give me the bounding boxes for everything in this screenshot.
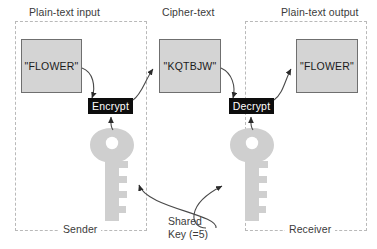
panel-receiver-footer: Receiver <box>285 223 335 235</box>
ciphertext-box: "KQTBJW" <box>159 39 221 93</box>
diagram-canvas: Plain-text input Sender Cipher-text Plai… <box>0 0 377 249</box>
panel-sender-footer: Sender <box>59 223 101 235</box>
shared-key-label-line1: Shared <box>168 215 208 228</box>
plaintext-output-box: "FLOWER" <box>296 39 358 93</box>
connector-ciphertext-to-decrypt <box>221 68 234 98</box>
panel-sender-title: Plain-text input <box>29 6 100 18</box>
encrypt-box: Encrypt <box>88 98 133 114</box>
plaintext-input-box: "FLOWER" <box>21 39 82 93</box>
decrypt-box: Decrypt <box>229 98 274 114</box>
shared-key-label-line2: Key (=5) <box>168 228 208 241</box>
shared-key-label: Shared Key (=5) <box>168 215 208 241</box>
panel-cipher-title: Cipher-text <box>162 6 214 18</box>
panel-receiver-title: Plain-text output <box>281 6 359 18</box>
